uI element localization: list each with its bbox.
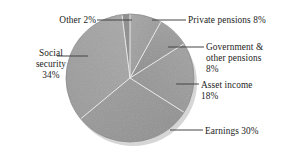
slice-label-government-pensions-line1: Government &: [206, 42, 292, 53]
slice-label-social-security-line1: Social: [20, 48, 82, 59]
slice-label-government-pensions-line3: 8%: [206, 64, 292, 75]
slice-label-asset-income-line1: Asset income: [201, 80, 285, 91]
slice-label-social-security-line2: security: [20, 59, 82, 70]
pie-chart-figure: Other 2% Social security 34% Private pen…: [0, 0, 294, 159]
slice-label-earnings: Earnings 30%: [205, 126, 259, 137]
slice-label-government-pensions-line2: other pensions: [206, 53, 292, 64]
slice-label-asset-income-line2: 18%: [201, 91, 285, 102]
slice-label-other: Other 2%: [56, 15, 96, 26]
slice-label-private-pensions: Private pensions 8%: [188, 15, 266, 26]
slice-label-government-other-pensions: Government & other pensions 8%: [206, 42, 292, 76]
slice-label-social-security: Social security 34%: [20, 48, 82, 82]
slice-label-social-security-line3: 34%: [20, 70, 82, 81]
slice-label-asset-income: Asset income 18%: [201, 80, 285, 102]
